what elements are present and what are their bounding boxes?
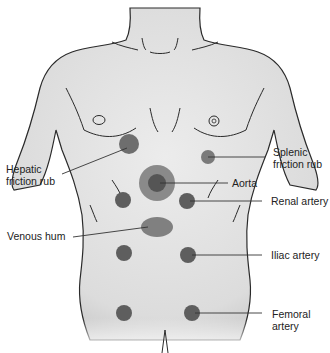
renal-artery-label: Renal artery (271, 195, 328, 207)
iliac-artery-label: Iliac artery (271, 249, 319, 261)
venous-hum-label: Venous hum (7, 230, 65, 242)
femoral-artery-label: Femoral artery (272, 308, 311, 332)
iliac-right-site (116, 245, 132, 261)
femoral-right-site (116, 305, 132, 321)
splenic-friction-rub-label: Splenic friction rub (273, 146, 322, 170)
renal-right-site (115, 192, 131, 208)
aorta-label: Aorta (232, 177, 257, 189)
hepatic-site (119, 134, 139, 154)
hepatic-friction-rub-label: Hepatic friction rub (6, 163, 55, 187)
